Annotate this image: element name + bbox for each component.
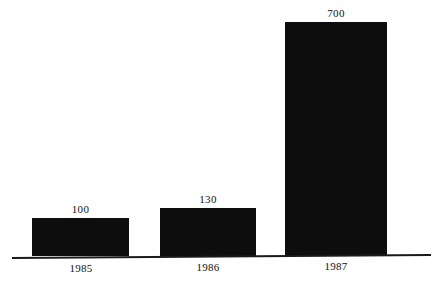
category-label-1986: 1986 xyxy=(162,262,254,273)
category-label-1985: 1985 xyxy=(35,263,127,274)
bar-1987 xyxy=(285,22,387,256)
category-label-1987: 1987 xyxy=(290,261,382,272)
bar-value-label-1985: 100 xyxy=(32,204,129,215)
bar-1985 xyxy=(32,218,129,256)
bar-chart: 700 130 100 1985 1986 1987 xyxy=(0,0,443,285)
bar-value-label-1987: 700 xyxy=(285,8,387,19)
bar-value-label-1986: 130 xyxy=(160,194,256,205)
bar-1986 xyxy=(160,208,256,256)
plot-area: 700 130 100 1985 1986 1987 xyxy=(0,0,443,285)
